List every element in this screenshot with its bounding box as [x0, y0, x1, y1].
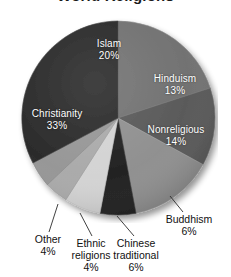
pie-label-ethnic-religions-name: Ethnic	[76, 237, 105, 249]
pie-label-christianity-value: 33%	[16, 120, 98, 132]
pie-label-buddhism: Buddhism 6%	[156, 213, 222, 237]
pie-label-buddhism-value: 6%	[156, 225, 222, 237]
pie-label-chinese-traditional-name: Chinese	[117, 237, 156, 249]
pie-chart-figure: World Religions	[0, 0, 231, 277]
pie-label-other: Other 4%	[20, 233, 76, 257]
chart-title-cropped: World Religions	[0, 0, 231, 6]
chart-title-text: World Religions	[0, 0, 231, 4]
pie-label-hinduism-name: Hinduism	[154, 73, 196, 84]
pie-label-nonreligious-value: 14%	[133, 136, 219, 148]
pie-label-hinduism-value: 13%	[137, 85, 213, 97]
pie-label-other-name: Other	[35, 233, 61, 245]
pie-label-christianity-name: Christianity	[32, 108, 83, 119]
pie-label-islam-value: 20%	[76, 50, 142, 62]
pie-label-islam: Islam 20%	[76, 38, 142, 61]
pie-label-nonreligious: Nonreligious 14%	[133, 124, 219, 147]
pie-label-nonreligious-name: Nonreligious	[148, 124, 205, 135]
pie-label-buddhism-name: Buddhism	[166, 213, 213, 225]
pie-label-hinduism: Hinduism 13%	[137, 73, 213, 96]
pie-label-islam-name: Islam	[97, 38, 121, 49]
pie-label-other-value: 4%	[20, 245, 76, 257]
pie-label-christianity: Christianity 33%	[16, 108, 98, 131]
pie-label-ethnic-religions-value: 4%	[62, 261, 120, 273]
